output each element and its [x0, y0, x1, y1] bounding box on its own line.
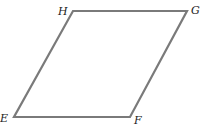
parallelogram-diagram: H G F E — [0, 0, 205, 126]
vertex-label-e: E — [0, 112, 8, 125]
vertex-label-h: H — [57, 5, 68, 18]
parallelogram-efgh — [14, 11, 187, 117]
vertex-label-f: F — [133, 114, 142, 126]
vertex-label-g: G — [191, 4, 200, 17]
